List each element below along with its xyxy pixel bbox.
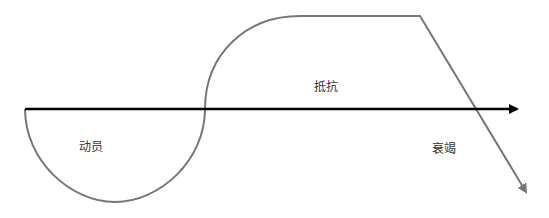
mobilization-curve bbox=[25, 109, 205, 202]
stage-label-exhaustion: 衰竭 bbox=[432, 139, 456, 156]
stage-diagram bbox=[0, 0, 549, 218]
stage-label-mobilization: 动员 bbox=[79, 137, 103, 154]
stage-label-resistance: 抵抗 bbox=[314, 77, 338, 94]
resistance-exhaustion-curve bbox=[205, 16, 526, 192]
